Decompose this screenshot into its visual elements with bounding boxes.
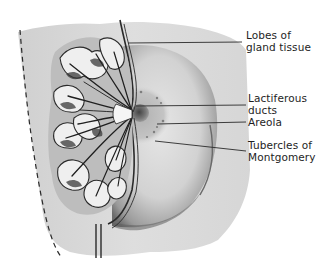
label-lactiferous-ducts: Lactiferous ducts <box>248 92 307 116</box>
label-tubercles-line1: Tubercles of <box>248 139 316 151</box>
label-lobes-line1: Lobes of <box>246 29 311 41</box>
label-ducts-line1: Lactiferous <box>248 92 307 104</box>
label-lobes-line2: gland tissue <box>246 41 311 53</box>
nipple <box>131 104 149 122</box>
label-areola: Areola <box>248 116 282 128</box>
label-lobes-of-gland-tissue: Lobes of gland tissue <box>246 29 311 53</box>
label-tubercles-line2: Montgomery <box>248 151 316 163</box>
label-ducts-line2: ducts <box>248 104 307 116</box>
label-tubercles-of-montgomery: Tubercles of Montgomery <box>248 139 316 163</box>
label-areola-line1: Areola <box>248 116 282 128</box>
